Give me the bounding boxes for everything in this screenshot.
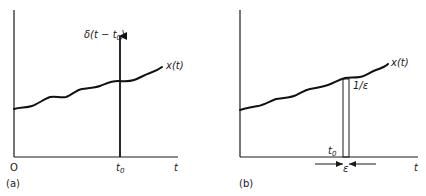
t0-tick-label: t0 xyxy=(116,162,125,175)
origin-label: O xyxy=(10,162,18,173)
signal-curve xyxy=(14,67,162,109)
signal-label: x(t) xyxy=(390,57,409,68)
caption-b: (b) xyxy=(239,178,253,189)
signal-label: x(t) xyxy=(165,60,184,71)
width-label: ε xyxy=(343,163,349,174)
t0-label: t0 xyxy=(328,145,337,158)
height-label: 1/ε xyxy=(353,80,369,91)
caption-a: (a) xyxy=(6,178,20,189)
rectangular-pulse xyxy=(343,79,349,157)
impulse-label: δ(t − t0) xyxy=(84,29,125,42)
impulse-sifting-figure: δ(t − t0) x(t) O t0 t (a) x(t) 1/ε t0 ε … xyxy=(0,0,426,196)
t-axis-label: t xyxy=(174,162,179,173)
t-axis-label: t xyxy=(414,162,419,173)
panel-b: x(t) 1/ε t0 ε t (b) xyxy=(239,10,419,189)
panel-a: δ(t − t0) x(t) O t0 t (a) xyxy=(6,10,184,189)
